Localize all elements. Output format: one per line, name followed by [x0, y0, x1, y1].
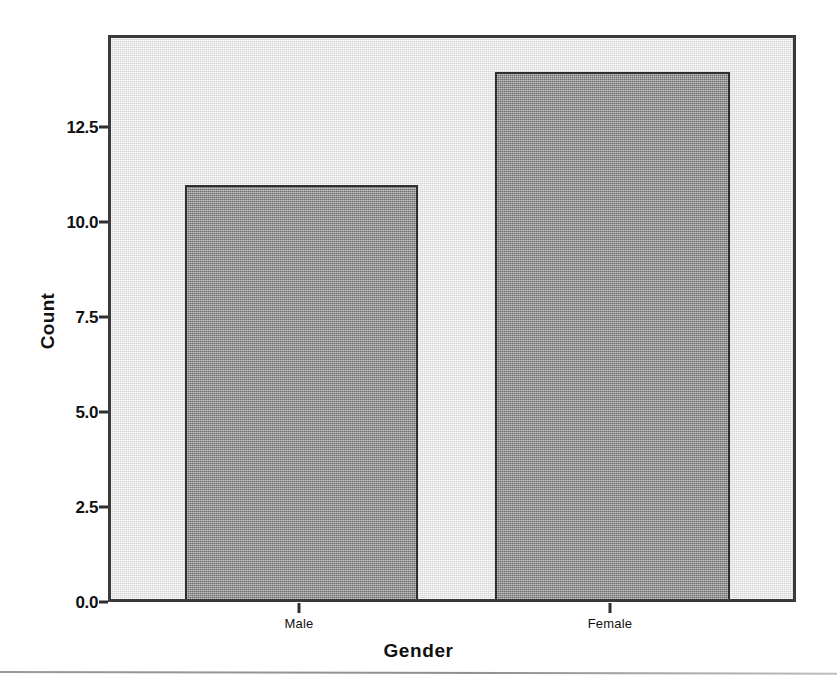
bar-male[interactable] — [185, 185, 418, 599]
y-tick-mark-0 — [99, 601, 108, 604]
x-tick-mark-male — [298, 603, 301, 613]
y-tick-mark-1 — [99, 506, 108, 509]
y-tick-mark-5 — [99, 126, 108, 129]
bar-chart-figure: 0.0 2.5 5.0 7.5 10.0 12.5 Count Male Fem… — [0, 0, 837, 693]
y-tick-label-5: 12.5 — [67, 119, 99, 136]
y-tick-label-0: 0.0 — [76, 594, 98, 611]
y-tick-label-3: 7.5 — [76, 309, 98, 326]
x-tick-mark-female — [609, 603, 612, 613]
y-tick-mark-2 — [99, 411, 108, 414]
plot-area — [108, 35, 796, 602]
x-tick-label-male: Male — [285, 616, 314, 631]
y-tick-label-1: 2.5 — [76, 499, 98, 516]
x-tick-label-female: Female — [588, 616, 633, 631]
y-tick-mark-4 — [99, 221, 108, 224]
y-tick-label-4: 10.0 — [67, 214, 99, 231]
y-axis-title: Count — [20, 293, 76, 349]
bar-female[interactable] — [495, 72, 730, 599]
x-axis-title: Gender — [0, 640, 837, 662]
y-tick-label-2: 5.0 — [76, 404, 98, 421]
y-tick-mark-3 — [99, 316, 108, 319]
page-separator-rule — [0, 671, 837, 675]
